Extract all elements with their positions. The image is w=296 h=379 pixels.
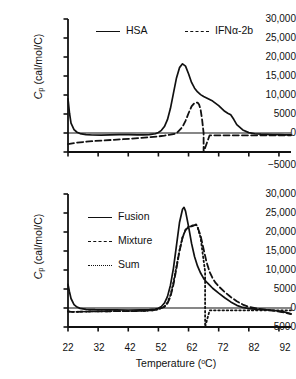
x-axis-title-main: Temperature ( [136,357,201,369]
series-line-hsa [68,64,291,135]
x-axis-title: Temperature (oC) [60,357,292,369]
x-axis-title-tail: C) [205,357,216,369]
chart-panel-top: Cp (cal/mol/C) 30,000 25,000 20,000 15,0… [0,0,296,190]
x-tick-label: 52 [146,343,176,353]
series-line-ifn-2b [68,103,291,152]
series-line-sum [68,224,291,327]
x-tick-label: 32 [84,343,114,353]
x-tick-label: 42 [115,343,145,353]
plot-area-top [0,0,296,190]
x-tick-label: 72 [208,343,238,353]
x-tick-label: 22 [53,343,83,353]
x-tick-label: 62 [177,343,207,353]
x-tick-label: 92 [270,343,296,353]
series-line-mixture [68,225,291,314]
series-line-fusion [68,207,291,313]
x-tick-label: 82 [239,343,269,353]
